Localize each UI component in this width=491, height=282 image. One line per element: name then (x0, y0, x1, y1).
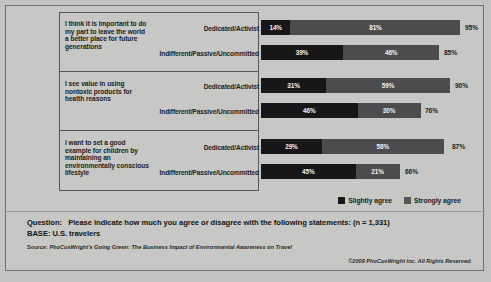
bar-total-value: 87% (452, 139, 465, 154)
bar-row: 39% 46% (261, 45, 439, 60)
legend-label: Strongly agree (414, 197, 461, 204)
bar-value-strongly: 30% (383, 107, 396, 114)
bar-value-strongly: 58% (377, 143, 390, 150)
bar-row: 14% 81% (261, 20, 460, 35)
segment-label: Dedicated/Activist (109, 25, 259, 32)
question-row: Question: Please indicate how much you a… (27, 218, 390, 227)
legend-item-strongly-agree: Strongly agree (404, 197, 461, 204)
segment-label: Dedicated/Activist (109, 83, 259, 90)
bar-segment-slightly-agree: 29% (261, 139, 322, 154)
bar-segment-slightly-agree: 39% (261, 45, 343, 60)
bar-value-slightly: 45% (302, 168, 315, 175)
legend-label: Slightly agree (348, 197, 392, 204)
legend-item-slightly-agree: Slightly agree (338, 197, 392, 204)
bar-value-strongly: 21% (371, 168, 384, 175)
copyright-text: ©2009 PhoCusWright Inc. All Rights Reser… (348, 258, 472, 264)
bar-value-strongly: 46% (385, 49, 398, 56)
bar-value-strongly: 59% (382, 82, 395, 89)
segment-label: Indifferent/Passive/Uncommitted (109, 50, 259, 57)
segment-label: Indifferent/Passive/Uncommitted (109, 169, 259, 176)
source-row: Source: PhoCusWright's Going Green: The … (27, 244, 292, 250)
bar-segment-slightly-agree: 31% (261, 78, 326, 93)
bar-segment-strongly-agree: 81% (290, 20, 460, 35)
group-divider-1 (59, 71, 259, 72)
legend-swatch-icon (404, 197, 411, 204)
bar-value-strongly: 81% (369, 24, 382, 31)
bar-total-value: 85% (444, 45, 457, 60)
bar-value-slightly: 31% (287, 82, 300, 89)
bar-total-value: 66% (405, 164, 418, 179)
source-label: Source: (27, 244, 48, 250)
bar-row: 46% 30% (261, 103, 421, 118)
chart-frame: I think it is important to do my part to… (5, 5, 484, 271)
chart-plot-area: I think it is important to do my part to… (6, 6, 485, 201)
footer-divider (6, 211, 485, 212)
bar-value-slightly: 39% (296, 49, 309, 56)
question-label: Question: (27, 218, 62, 227)
bar-segment-strongly-agree: 59% (326, 78, 450, 93)
chart-legend: Slightly agree Strongly agree (6, 197, 461, 204)
bar-segment-strongly-agree: 58% (322, 139, 444, 154)
group-divider-2 (59, 130, 259, 131)
bar-segment-slightly-agree: 14% (261, 20, 290, 35)
bar-segment-slightly-agree: 46% (261, 103, 358, 118)
legend-swatch-icon (338, 197, 345, 204)
source-text: PhoCusWright's Going Green: The Business… (49, 244, 291, 250)
bar-value-slightly: 29% (285, 143, 298, 150)
bar-total-value: 76% (425, 103, 438, 118)
bar-total-value: 90% (455, 78, 468, 93)
bar-segment-slightly-agree: 45% (261, 164, 356, 179)
bar-segment-strongly-agree: 46% (343, 45, 440, 60)
bar-segment-strongly-agree: 21% (356, 164, 400, 179)
segment-label: Indifferent/Passive/Uncommitted (109, 108, 259, 115)
bar-row: 29% 58% (261, 139, 444, 154)
bar-row: 45% 21% (261, 164, 400, 179)
bar-total-value: 95% (465, 20, 478, 35)
bar-row: 31% 59% (261, 78, 450, 93)
base-text: BASE: U.S. travelers (27, 229, 100, 238)
bar-value-slightly: 46% (303, 107, 316, 114)
bar-segment-strongly-agree: 30% (358, 103, 421, 118)
segment-label: Dedicated/Activist (109, 144, 259, 151)
bar-value-slightly: 14% (269, 24, 282, 31)
question-text: Please indicate how much you agree or di… (68, 218, 390, 227)
